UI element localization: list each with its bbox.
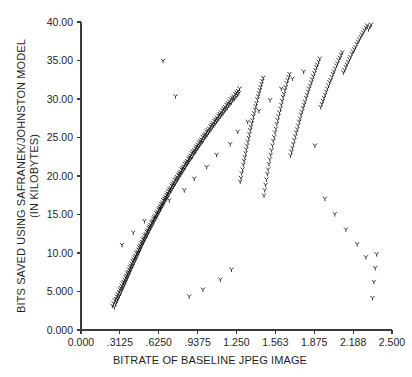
data-point-marker <box>237 87 241 91</box>
data-point-marker <box>247 132 251 136</box>
data-point-marker <box>258 88 262 92</box>
y-tick-label: 40.00 <box>47 16 73 28</box>
data-point-marker <box>120 243 124 247</box>
data-point-marker <box>355 242 359 246</box>
data-point-marker <box>313 144 317 148</box>
data-point-marker <box>250 121 254 125</box>
data-point-marker <box>218 278 222 282</box>
data-point-marker <box>323 197 327 201</box>
data-points-layer <box>110 23 378 310</box>
data-point-marker <box>271 139 275 143</box>
data-point-marker <box>295 127 299 131</box>
data-point-marker <box>246 120 250 124</box>
data-point-marker <box>249 125 253 129</box>
data-point-marker <box>369 23 373 27</box>
data-point-marker <box>260 79 264 83</box>
data-point-marker <box>247 136 251 140</box>
data-point-marker <box>241 163 245 167</box>
data-point-marker <box>274 127 278 131</box>
x-tick-label: 1.563 <box>262 336 288 348</box>
data-point-marker <box>272 135 276 139</box>
data-point-marker <box>298 117 302 121</box>
data-point-marker <box>344 228 348 232</box>
data-point-marker <box>273 130 277 134</box>
data-point-marker <box>215 153 219 157</box>
scatter-plot-figure: 0.0005.00010.0015.0020.0025.0030.0035.00… <box>0 0 412 377</box>
data-point-marker <box>277 110 281 114</box>
data-point-marker <box>280 99 284 103</box>
x-tick-label: .3125 <box>107 336 133 348</box>
x-tick-label: 2.188 <box>340 336 366 348</box>
x-tick-label: 1.875 <box>301 336 327 348</box>
data-point-marker <box>174 94 178 98</box>
data-point-marker <box>290 77 294 81</box>
data-point-marker <box>270 144 274 148</box>
x-tick-label: .9375 <box>184 336 210 348</box>
data-point-marker <box>333 212 337 216</box>
data-point-marker <box>287 72 291 76</box>
data-point-marker <box>297 120 301 124</box>
y-axis-title-line2: (IN KILOBYTES) <box>28 134 40 218</box>
data-point-marker <box>284 85 288 89</box>
data-point-marker <box>290 146 294 150</box>
x-tick-label: .6250 <box>146 336 172 348</box>
data-point-marker <box>285 81 289 85</box>
data-point-marker <box>259 85 263 89</box>
y-tick-label: 15.00 <box>47 208 73 220</box>
data-point-marker <box>244 151 248 155</box>
data-point-marker <box>238 180 242 184</box>
y-tick-label: 10.00 <box>47 247 73 259</box>
data-point-marker <box>263 188 267 192</box>
data-point-marker <box>257 91 261 95</box>
data-point-marker <box>187 294 191 298</box>
data-point-marker <box>302 70 306 74</box>
data-point-marker <box>318 57 322 61</box>
data-point-marker <box>256 94 260 98</box>
x-tick-label: 1.250 <box>223 336 249 348</box>
data-point-marker <box>192 177 196 181</box>
data-point-marker <box>240 171 244 175</box>
x-axis-title: BITRATE OF BASELINE JPEG IMAGE <box>113 354 307 366</box>
x-tick-label: 2.500 <box>379 336 405 348</box>
data-point-marker <box>267 162 271 166</box>
data-point-marker <box>293 134 297 138</box>
data-point-marker <box>269 153 273 157</box>
data-point-marker <box>289 150 293 154</box>
data-point-marker <box>264 183 268 187</box>
y-tick-label: 5.000 <box>47 285 73 297</box>
y-tick-label: 35.00 <box>47 54 73 66</box>
data-point-marker <box>261 76 265 80</box>
data-point-marker <box>230 268 234 272</box>
data-point-marker <box>167 198 171 202</box>
data-point-marker <box>253 107 257 111</box>
data-point-marker <box>268 157 272 161</box>
data-point-marker <box>268 98 272 102</box>
data-point-marker <box>131 231 135 235</box>
y-tick-label: 30.00 <box>47 93 73 105</box>
data-point-marker <box>255 97 259 101</box>
data-point-marker <box>296 124 300 128</box>
data-point-marker <box>278 107 282 111</box>
data-point-marker <box>265 172 269 176</box>
data-point-marker <box>244 147 248 151</box>
data-point-marker <box>364 255 368 259</box>
data-point-marker <box>257 109 261 113</box>
data-point-marker <box>239 176 243 180</box>
data-point-marker <box>300 110 304 114</box>
data-point-marker <box>373 266 377 270</box>
data-point-marker <box>252 111 256 115</box>
data-point-marker <box>276 118 280 122</box>
data-point-marker <box>266 167 270 171</box>
data-point-marker <box>228 142 232 146</box>
data-point-marker <box>275 122 279 126</box>
data-point-marker <box>201 288 205 292</box>
data-point-marker <box>254 104 258 108</box>
data-point-marker <box>255 101 259 105</box>
data-point-marker <box>251 118 255 122</box>
data-point-marker <box>264 177 268 181</box>
y-tick-label: 20.00 <box>47 170 73 182</box>
data-point-marker <box>248 128 252 132</box>
data-point-marker <box>277 114 281 118</box>
data-point-marker <box>245 144 249 148</box>
data-point-marker <box>182 188 186 192</box>
